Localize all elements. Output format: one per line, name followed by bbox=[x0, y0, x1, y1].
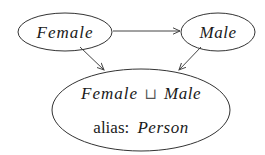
edge-male-to-union bbox=[179, 47, 201, 70]
node-male[interactable]: Male bbox=[181, 13, 255, 51]
union-operator-icon: ⊔ bbox=[144, 86, 157, 102]
node-union-ellipse bbox=[52, 69, 230, 151]
union-left-operand: Female bbox=[80, 84, 138, 103]
node-female[interactable]: Female bbox=[18, 13, 112, 51]
edge-female-to-union bbox=[80, 47, 104, 70]
diagram-svg: Female Male Female ⊔ Male alias: Person bbox=[0, 0, 265, 155]
alias-value: Person bbox=[136, 118, 188, 137]
node-male-label: Male bbox=[199, 23, 237, 42]
node-union[interactable]: Female ⊔ Male alias: Person bbox=[52, 69, 230, 151]
node-union-alias: alias: Person bbox=[93, 118, 188, 137]
diagram-canvas: Female Male Female ⊔ Male alias: Person bbox=[0, 0, 265, 155]
node-union-expression: Female ⊔ Male bbox=[80, 84, 201, 103]
node-female-label: Female bbox=[36, 23, 94, 42]
union-right-operand: Male bbox=[163, 84, 201, 103]
alias-prefix: alias: bbox=[93, 118, 129, 137]
